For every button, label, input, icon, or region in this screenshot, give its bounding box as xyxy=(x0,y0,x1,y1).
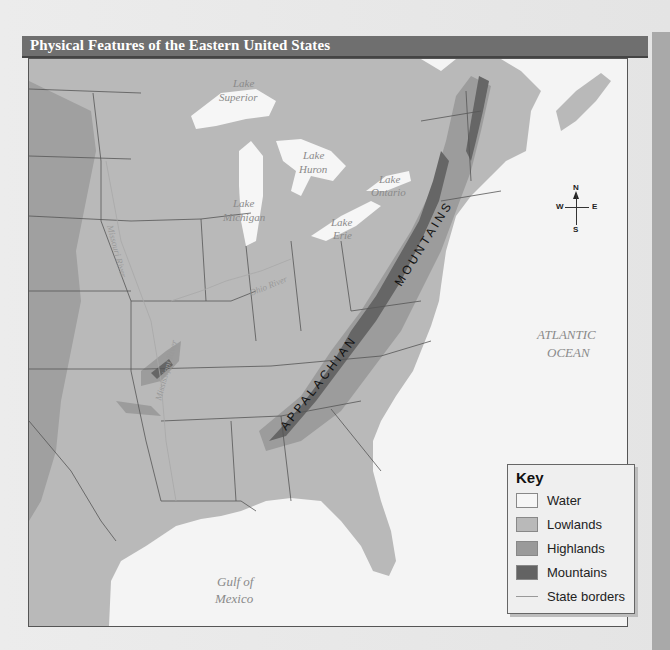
compass-west: W xyxy=(556,202,564,211)
state-border-line-icon xyxy=(516,596,538,597)
label-gulf-of-mexico-1: Gulf of xyxy=(217,574,256,589)
key-item-lowlands: Lowlands xyxy=(516,515,602,533)
water-swatch-icon xyxy=(516,493,538,508)
key-item-state-borders: State borders xyxy=(516,587,625,605)
label-lake-erie-1: Lake xyxy=(330,216,353,228)
label-lake-superior-1: Lake xyxy=(232,77,255,89)
mountains-swatch-icon xyxy=(516,565,538,580)
compass-south: S xyxy=(573,225,578,234)
page-edge-strip xyxy=(652,32,670,650)
key-label-lowlands: Lowlands xyxy=(547,517,602,532)
label-lake-superior-2: Superior xyxy=(219,91,258,103)
compass-horizontal-line xyxy=(565,207,589,208)
compass-east: E xyxy=(592,202,597,211)
compass-vertical-line xyxy=(576,193,577,225)
map-title-bar: Physical Features of the Eastern United … xyxy=(22,36,648,58)
label-lake-ontario-1: Lake xyxy=(378,173,401,185)
lowlands-swatch-icon xyxy=(516,517,538,532)
key-label-highlands: Highlands xyxy=(547,541,605,556)
key-item-water: Water xyxy=(516,491,581,509)
compass-rose: N W E S xyxy=(556,183,600,235)
map-title: Physical Features of the Eastern United … xyxy=(30,37,330,54)
label-lake-huron-1: Lake xyxy=(302,149,325,161)
highlands-swatch-icon xyxy=(516,541,538,556)
key-label-state-borders: State borders xyxy=(547,589,625,604)
map-key: Key Water Lowlands Highlands Mountains S… xyxy=(507,464,635,614)
key-label-water: Water xyxy=(547,493,581,508)
label-lake-michigan-1: Lake xyxy=(232,197,255,209)
key-item-mountains: Mountains xyxy=(516,563,607,581)
key-title: Key xyxy=(516,469,544,486)
label-lake-ontario-2: Ontario xyxy=(371,186,406,198)
label-lake-erie-2: Erie xyxy=(332,229,352,241)
label-atlantic-ocean-2: OCEAN xyxy=(547,345,591,360)
key-item-highlands: Highlands xyxy=(516,539,605,557)
key-label-mountains: Mountains xyxy=(547,565,607,580)
label-lake-huron-2: Huron xyxy=(298,163,328,175)
label-gulf-of-mexico-2: Mexico xyxy=(214,591,254,606)
label-lake-michigan-2: Michigan xyxy=(222,211,266,223)
label-atlantic-ocean-1: ATLANTIC xyxy=(536,327,596,342)
